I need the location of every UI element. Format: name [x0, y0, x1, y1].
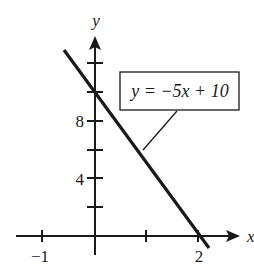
- equation-label: y = −5x + 10: [129, 81, 228, 101]
- x-axis-label: x: [246, 227, 254, 246]
- y-tick-label-4: 4: [76, 170, 85, 189]
- callout-leader: [143, 111, 177, 150]
- x-tick-label-2: 2: [195, 247, 204, 266]
- graph: y x 4 8 4 −1 2 y = −5x + 10: [0, 0, 254, 275]
- y-axis-label: y: [90, 11, 100, 30]
- x-tick-label-neg1: −1: [31, 247, 49, 266]
- y-tick-label-8: 8: [76, 112, 85, 131]
